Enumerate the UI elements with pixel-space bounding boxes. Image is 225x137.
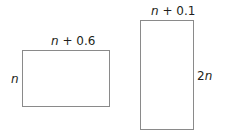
right-rectangle-width-label: n + 0.1	[151, 4, 195, 18]
left-rectangle	[22, 50, 110, 107]
left-rectangle-width-label: n + 0.6	[51, 34, 95, 48]
variable-n: n	[11, 72, 19, 86]
variable-n: n	[151, 4, 159, 18]
left-rectangle-height-label: n	[11, 72, 19, 86]
variable-n: n	[205, 69, 213, 83]
right-rectangle	[140, 20, 194, 130]
right-rectangle-height-label: 2n	[197, 69, 212, 83]
variable-n: n	[51, 34, 59, 48]
